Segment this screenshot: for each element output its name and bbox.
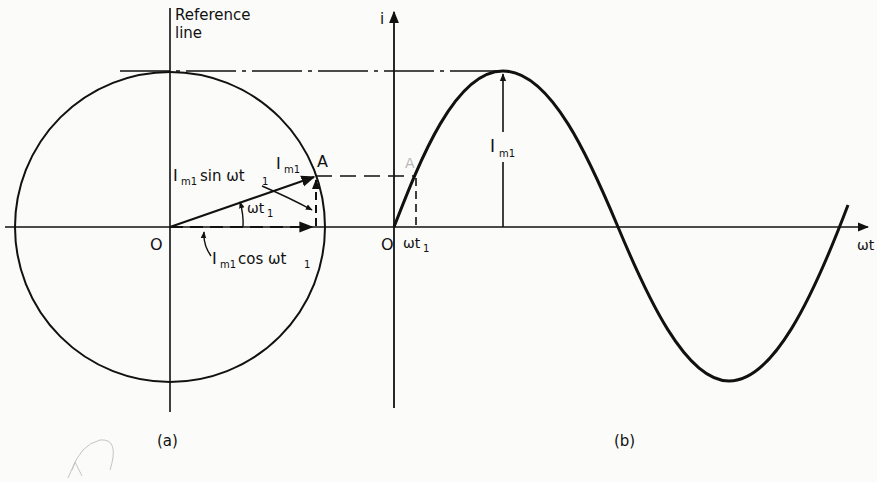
panel-a: Reference line O A I m1 ωt 1 I m1 sin ωt… [5, 6, 503, 450]
y-axis-label: i [380, 10, 384, 28]
caption-b: (b) [614, 432, 635, 450]
angle-label: ωt 1 [247, 200, 273, 219]
amplitude-label: I m1 [490, 136, 515, 159]
origin-label-a: O [150, 235, 163, 254]
svg-text:cos ωt: cos ωt [238, 250, 287, 268]
svg-text:1: 1 [267, 208, 273, 219]
sine-wave-curve [394, 71, 848, 381]
sin-label-leader [262, 186, 312, 210]
angle-arc [240, 202, 243, 227]
cos-component-label: I m1 cos ωt 1 [212, 249, 310, 270]
panel-b: i ωt O A ωt 1 I m1 (b) [380, 10, 875, 450]
sin-component-label: I m1 sin ωt 1 [173, 166, 268, 187]
t1-label: ωt 1 [403, 235, 429, 254]
svg-text:I: I [173, 166, 178, 185]
svg-text:sin ωt: sin ωt [200, 167, 245, 185]
phasor-magnitude-label: I m1 [276, 154, 300, 175]
reference-label-line: line [175, 24, 202, 42]
svg-text:1: 1 [423, 243, 429, 254]
point-a-label: A [317, 152, 328, 171]
phasor-sine-diagram: Reference line O A I m1 ωt 1 I m1 sin ωt… [0, 0, 877, 482]
svg-text:I: I [212, 249, 217, 268]
pencil-scribble [68, 440, 113, 478]
svg-text:1: 1 [262, 176, 268, 187]
cos-label-leader [204, 232, 211, 256]
svg-text:m1: m1 [284, 164, 300, 175]
svg-text:m1: m1 [499, 148, 515, 159]
reference-label: Reference [175, 6, 251, 24]
svg-text:m1: m1 [181, 176, 197, 187]
x-axis-label: ωt [857, 237, 875, 253]
svg-text:1: 1 [304, 259, 310, 270]
svg-text:ωt: ωt [247, 200, 265, 216]
faint-point-a: A [405, 155, 415, 171]
svg-text:ωt: ωt [403, 235, 421, 251]
svg-text:I: I [490, 136, 495, 156]
origin-label-b: O [381, 235, 394, 254]
svg-text:I: I [276, 154, 281, 173]
svg-text:m1: m1 [220, 259, 236, 270]
caption-a: (a) [157, 432, 178, 450]
